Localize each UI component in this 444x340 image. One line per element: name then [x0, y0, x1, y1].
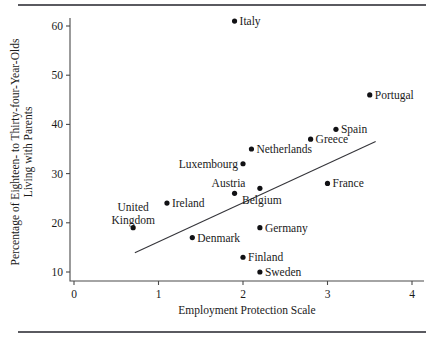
figure-container: 10203040506001234ItalyPortugalSpainGreec… [0, 0, 444, 340]
x-tick-label-4: 4 [409, 288, 415, 300]
data-label-ireland: Ireland [172, 197, 205, 209]
data-label-belgium: Belgium [242, 194, 282, 207]
data-label-denmark: Denmark [197, 232, 240, 244]
data-point-ireland[interactable] [164, 201, 169, 206]
x-axis-title: Employment Protection Scale [178, 304, 315, 317]
data-point-portugal[interactable] [367, 92, 372, 97]
data-label-italy: Italy [240, 15, 261, 28]
data-label-finland: Finland [248, 251, 283, 263]
data-point-germany[interactable] [257, 225, 262, 230]
data-point-austria[interactable] [232, 191, 237, 196]
data-label-netherlands: Netherlands [256, 143, 312, 155]
data-label-france: France [333, 177, 364, 189]
data-point-luxembourg[interactable] [240, 161, 245, 166]
data-point-denmark[interactable] [190, 235, 195, 240]
y-tick-label-30: 30 [52, 168, 64, 180]
data-label-portugal: Portugal [375, 89, 414, 102]
data-point-united-kingdom[interactable] [131, 225, 136, 230]
y-tick-label-40: 40 [52, 118, 64, 130]
data-label-germany: Germany [265, 222, 308, 235]
y-axis-title-line2: Living with Parents [22, 106, 35, 197]
data-point-greece[interactable] [308, 137, 313, 142]
data-point-belgium[interactable] [257, 186, 262, 191]
data-label-austria: Austria [212, 177, 246, 189]
x-tick-label-1: 1 [156, 288, 162, 300]
data-point-sweden[interactable] [257, 269, 262, 274]
x-tick-label-2: 2 [240, 288, 246, 300]
data-point-finland[interactable] [240, 255, 245, 260]
data-label-sweden: Sweden [265, 266, 302, 278]
data-point-netherlands[interactable] [249, 146, 254, 151]
data-point-italy[interactable] [232, 18, 237, 23]
y-tick-label-20: 20 [52, 217, 64, 229]
data-label-united-kingdom: UnitedKingdom [111, 201, 155, 227]
y-tick-label-60: 60 [52, 20, 64, 32]
x-tick-label-3: 3 [325, 288, 331, 300]
y-tick-label-50: 50 [52, 69, 64, 81]
plot-axes [70, 18, 424, 281]
data-point-france[interactable] [325, 181, 330, 186]
data-label-luxembourg: Luxembourg [179, 158, 238, 171]
y-tick-label-10: 10 [52, 266, 64, 278]
data-label-greece: Greece [316, 133, 349, 145]
data-point-spain[interactable] [333, 127, 338, 132]
scatter-plot: 10203040506001234ItalyPortugalSpainGreec… [0, 0, 444, 340]
y-axis-title-line1: Percentage of Eighteen- to Thirty-four-Y… [9, 38, 22, 265]
x-tick-label-0: 0 [71, 288, 77, 300]
